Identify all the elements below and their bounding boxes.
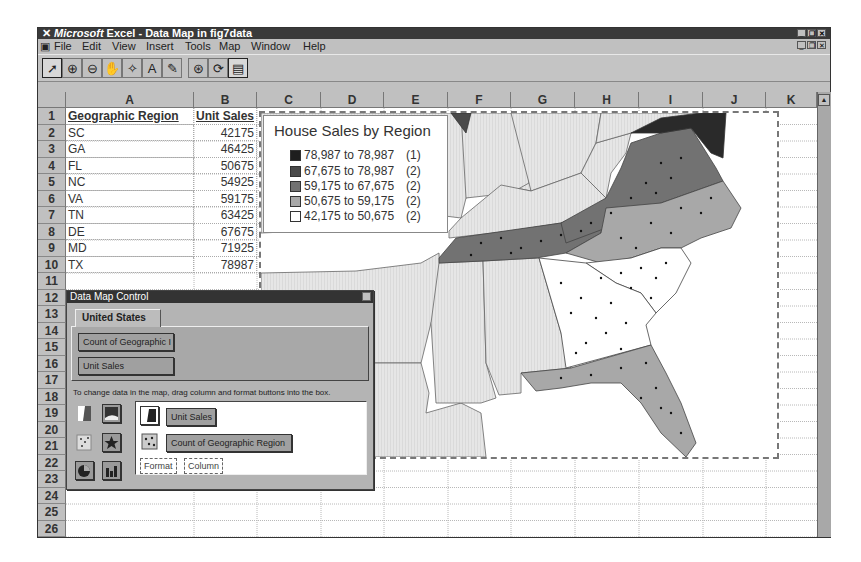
menu-file[interactable]: File: [54, 39, 72, 53]
row-header-24[interactable]: 24: [38, 488, 66, 505]
cell-b2[interactable]: 42175: [194, 125, 257, 142]
cell-b7[interactable]: 63425: [194, 207, 257, 224]
cell-b1[interactable]: Unit Sales: [194, 108, 257, 125]
value-shading-format-icon[interactable]: [140, 406, 159, 425]
column-header-g[interactable]: G: [511, 92, 575, 108]
row-header-26[interactable]: 26: [38, 521, 66, 538]
column-header-j[interactable]: J: [703, 92, 766, 108]
row-header-21[interactable]: 21: [38, 438, 66, 455]
cell-a2[interactable]: SC: [66, 125, 194, 142]
menu-help[interactable]: Help: [303, 39, 326, 53]
row-header-3[interactable]: 3: [38, 141, 66, 158]
column-header-c[interactable]: C: [257, 92, 321, 108]
column-button-count[interactable]: Count of Geographic I: [78, 333, 174, 351]
document-menu-icon[interactable]: ▣: [40, 39, 50, 53]
menu-map[interactable]: Map: [219, 39, 240, 53]
dot-density-active-icon[interactable]: [140, 432, 159, 451]
row-header-22[interactable]: 22: [38, 455, 66, 472]
data-map-control-panel[interactable]: Data Map Control United States Count of …: [66, 290, 374, 490]
tab-united-states[interactable]: United States: [75, 309, 161, 327]
cell-b8[interactable]: 67675: [194, 224, 257, 241]
restore-button[interactable]: ❐: [807, 29, 816, 37]
cell-a4[interactable]: FL: [66, 158, 194, 175]
cell-a7[interactable]: TN: [66, 207, 194, 224]
map-legend[interactable]: House Sales by Region 78,987 to 78,987(1…: [263, 115, 448, 233]
column-header-i[interactable]: I: [639, 92, 703, 108]
menu-insert[interactable]: Insert: [146, 39, 174, 53]
row-header-7[interactable]: 7: [38, 207, 66, 224]
dot-density-format-icon[interactable]: [75, 433, 94, 452]
cell-b5[interactable]: 54925: [194, 174, 257, 191]
menu-view[interactable]: View: [112, 39, 136, 53]
row-header-23[interactable]: 23: [38, 471, 66, 488]
row-header-5[interactable]: 5: [38, 174, 66, 191]
custom-pin-button[interactable]: ✎: [162, 58, 182, 78]
menu-tools[interactable]: Tools: [185, 39, 211, 53]
column-header-d[interactable]: D: [321, 92, 384, 108]
active-column-unit-sales[interactable]: Unit Sales: [166, 408, 216, 426]
grabber-button[interactable]: ✋: [102, 58, 122, 78]
doc-close-button[interactable]: ✕: [817, 41, 826, 49]
cell-a1[interactable]: Geographic Region: [66, 108, 194, 125]
add-text-button[interactable]: A: [142, 58, 162, 78]
doc-restore-button[interactable]: ❐: [807, 41, 816, 49]
minimize-button[interactable]: _: [797, 29, 806, 37]
shaded-map-format-icon[interactable]: [75, 404, 94, 423]
column-header-a[interactable]: A: [66, 92, 194, 108]
menu-window[interactable]: Window: [251, 39, 290, 53]
row-header-4[interactable]: 4: [38, 158, 66, 175]
row-header-20[interactable]: 20: [38, 422, 66, 439]
menu-edit[interactable]: Edit: [82, 39, 101, 53]
category-shading-format-icon[interactable]: [102, 404, 121, 423]
select-objects-button[interactable]: ➚: [42, 58, 62, 78]
active-column-count[interactable]: Count of Geographic Region: [166, 434, 292, 452]
column-chart-format-icon[interactable]: [102, 461, 121, 480]
doc-minimize-button[interactable]: _: [797, 41, 806, 49]
close-button[interactable]: ✕: [817, 29, 826, 37]
column-button-unit-sales[interactable]: Unit Sales: [78, 357, 174, 375]
row-header-1[interactable]: 1: [38, 108, 66, 125]
show-control-button[interactable]: ▤: [228, 58, 248, 78]
cell-a6[interactable]: VA: [66, 191, 194, 208]
row-header-25[interactable]: 25: [38, 504, 66, 521]
graduated-symbol-star-icon[interactable]: [102, 433, 121, 452]
cell-a5[interactable]: NC: [66, 174, 194, 191]
cell-a3[interactable]: GA: [66, 141, 194, 158]
column-header-b[interactable]: B: [194, 92, 257, 108]
column-header-e[interactable]: E: [384, 92, 448, 108]
row-header-8[interactable]: 8: [38, 224, 66, 241]
cell-b6[interactable]: 59175: [194, 191, 257, 208]
row-header-18[interactable]: 18: [38, 389, 66, 406]
zoom-in-button[interactable]: ⊕: [62, 58, 82, 78]
row-header-12[interactable]: 12: [38, 290, 66, 307]
pie-chart-format-icon[interactable]: [75, 461, 94, 480]
cell-b9[interactable]: 71925: [194, 240, 257, 257]
row-header-6[interactable]: 6: [38, 191, 66, 208]
row-header-11[interactable]: 11: [38, 273, 66, 290]
panel-close-button[interactable]: [362, 292, 371, 301]
scroll-up-button[interactable]: ▲: [818, 94, 830, 106]
redraw-map-button[interactable]: ⟳: [208, 58, 228, 78]
row-header-10[interactable]: 10: [38, 257, 66, 274]
display-entire-button[interactable]: ⊛: [188, 58, 208, 78]
column-header-k[interactable]: K: [766, 92, 817, 108]
cell-a10[interactable]: TX: [66, 257, 194, 274]
cell-b10[interactable]: 78987: [194, 257, 257, 274]
cell-a8[interactable]: DE: [66, 224, 194, 241]
column-header-h[interactable]: H: [575, 92, 639, 108]
row-header-16[interactable]: 16: [38, 356, 66, 373]
cell-b4[interactable]: 50675: [194, 158, 257, 175]
select-all-corner[interactable]: [38, 92, 66, 108]
cell-a9[interactable]: MD: [66, 240, 194, 257]
cell-b3[interactable]: 46425: [194, 141, 257, 158]
format-drop-box[interactable]: Unit Sales Count of Geographic Region Fo…: [135, 401, 367, 475]
row-header-2[interactable]: 2: [38, 125, 66, 142]
row-header-15[interactable]: 15: [38, 339, 66, 356]
row-header-13[interactable]: 13: [38, 306, 66, 323]
row-header-17[interactable]: 17: [38, 372, 66, 389]
column-header-f[interactable]: F: [448, 92, 511, 108]
row-header-9[interactable]: 9: [38, 240, 66, 257]
row-header-19[interactable]: 19: [38, 405, 66, 422]
vertical-scrollbar[interactable]: ▲: [817, 92, 831, 537]
center-map-button[interactable]: ✧: [122, 58, 142, 78]
